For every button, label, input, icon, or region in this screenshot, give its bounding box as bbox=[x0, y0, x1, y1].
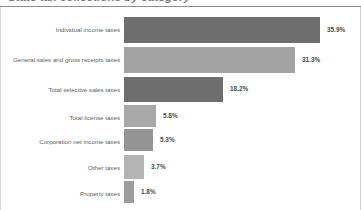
bar bbox=[124, 77, 223, 102]
bar bbox=[124, 181, 134, 203]
bar bbox=[124, 129, 153, 151]
chart-row: Total selective sales taxes 18.2% bbox=[0, 77, 361, 103]
bar-group: 5.3% bbox=[124, 129, 175, 151]
chart-title: State tax collections by category bbox=[8, 0, 353, 3]
chart-row: Other taxes 3.7% bbox=[0, 155, 361, 181]
chart-row: Property taxes 1.8% bbox=[0, 181, 361, 207]
chart-row: General sales and gross receipts taxes 3… bbox=[0, 47, 361, 73]
bar-value-label: 31.3% bbox=[302, 57, 320, 63]
chart-row: Corporation net income taxes 5.3% bbox=[0, 129, 361, 155]
category-label: Total selective sales taxes bbox=[4, 87, 120, 93]
category-label: Individual income taxes bbox=[4, 27, 120, 33]
bar bbox=[124, 105, 156, 127]
chart-screenshot: State tax collections by category Indivi… bbox=[0, 0, 361, 210]
bar-value-label: 35.9% bbox=[327, 27, 345, 33]
bar-group: 1.8% bbox=[124, 181, 156, 203]
bar-chart-plot-area: Individual income taxes 35.9% General sa… bbox=[0, 9, 361, 210]
bar-value-label: 1.8% bbox=[141, 189, 156, 195]
category-label: General sales and gross receipts taxes bbox=[4, 57, 120, 63]
bar-group: 35.9% bbox=[124, 17, 345, 43]
bar-value-label: 5.3% bbox=[160, 137, 175, 143]
bar bbox=[124, 17, 320, 43]
bar-group: 18.2% bbox=[124, 77, 248, 102]
bar bbox=[124, 155, 144, 179]
category-label: Other taxes bbox=[4, 165, 120, 171]
header-divider bbox=[0, 6, 361, 7]
category-label: Total license taxes bbox=[4, 115, 120, 121]
bar-value-label: 5.8% bbox=[163, 113, 178, 119]
bar-group: 3.7% bbox=[124, 155, 166, 179]
chart-row: Individual income taxes 35.9% bbox=[0, 17, 361, 43]
bar bbox=[124, 47, 295, 73]
chart-row: Total license taxes 5.8% bbox=[0, 105, 361, 131]
bar-value-label: 18.2% bbox=[230, 86, 248, 92]
bar-value-label: 3.7% bbox=[151, 164, 166, 170]
bar-group: 5.8% bbox=[124, 105, 178, 127]
category-label: Property taxes bbox=[4, 191, 120, 197]
bar-group: 31.3% bbox=[124, 47, 320, 73]
category-label: Corporation net income taxes bbox=[4, 139, 120, 145]
